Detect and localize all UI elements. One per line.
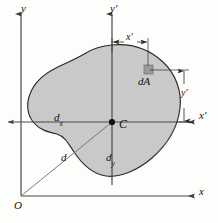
- dy-subscript: y: [112, 159, 115, 168]
- dimension-label-y-prime: y′: [181, 88, 188, 98]
- axis-label-y-prime: y′: [110, 3, 117, 14]
- axis-label-y: y: [21, 3, 26, 14]
- axis-label-x: x: [199, 186, 204, 197]
- differential-element-dA: [144, 65, 153, 74]
- dimension-label-dy: dy: [106, 152, 115, 163]
- dimension-label-dx: dx: [54, 112, 63, 123]
- dimension-label-d: d: [61, 152, 67, 163]
- parallel-axis-diagram: [0, 0, 218, 223]
- figure-root: y y′ x′ x O C dx dy d dA x′ y′: [0, 0, 218, 223]
- centroid-label: C: [119, 118, 127, 130]
- element-label-dA: dA: [138, 76, 150, 87]
- centroid-marker: [109, 119, 115, 125]
- dx-subscript: x: [60, 119, 63, 128]
- dx-base: d: [54, 111, 60, 123]
- plane-area-shape: [28, 45, 181, 177]
- dy-base: d: [106, 151, 112, 163]
- dimension-label-x-prime: x′: [126, 32, 133, 42]
- axis-label-x-prime: x′: [199, 110, 206, 121]
- origin-label: O: [14, 200, 22, 211]
